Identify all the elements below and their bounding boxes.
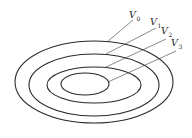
ellipse-v1 [29,54,159,116]
label-v1: V1 [150,16,161,29]
leader-line-v2 [106,39,166,67]
ellipse-v3 [61,73,109,95]
label-v3: V3 [171,37,182,50]
ellipse-v0 [15,41,173,123]
leader-line-v1 [106,28,156,54]
label-group: V0V1V2V3 [129,9,182,50]
label-v2: V2 [161,25,172,38]
label-v0: V0 [129,9,140,22]
nested-ellipses-diagram: V0V1V2V3 [0,0,192,138]
leader-line-v0 [107,20,133,42]
ellipse-group [15,41,173,123]
